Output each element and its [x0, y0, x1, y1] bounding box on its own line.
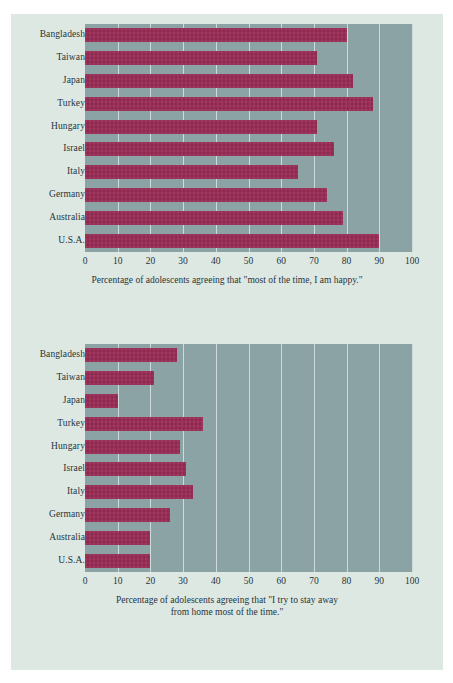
stayaway-xtick-80: 80	[342, 576, 352, 586]
happiness-xtick-90: 90	[375, 256, 385, 266]
category-label-japan: Japan	[11, 76, 85, 86]
category-label-germany: Germany	[11, 190, 85, 200]
happiness-xtick-60: 60	[276, 256, 286, 266]
happiness-xtick-0: 0	[83, 256, 88, 266]
stayaway-caption-line-2: from home most of the time."	[31, 606, 423, 618]
happiness-category-labels: BangladeshTaiwanJapanTurkeyHungaryIsrael…	[11, 24, 85, 252]
stayaway-gridline	[379, 344, 380, 572]
bar-hungary	[85, 120, 317, 134]
stayaway-xtick-70: 70	[309, 576, 319, 586]
category-label-japan: Japan	[11, 396, 85, 406]
happiness-xtick-10: 10	[113, 256, 123, 266]
bar-bangladesh	[85, 348, 177, 362]
stay-away-from-home-chart: BangladeshTaiwanJapanTurkeyHungaryIsrael…	[11, 344, 443, 654]
happiness-xtick-20: 20	[146, 256, 156, 266]
category-label-u-s-a: U.S.A.	[11, 236, 85, 246]
happiness-xtick-50: 50	[244, 256, 254, 266]
category-label-australia: Australia	[11, 213, 85, 223]
stayaway-xtick-100: 100	[405, 576, 419, 586]
category-label-hungary: Hungary	[11, 442, 85, 452]
bar-italy	[85, 485, 193, 499]
happiness-plot-wrap: BangladeshTaiwanJapanTurkeyHungaryIsrael…	[11, 24, 443, 269]
category-label-u-s-a: U.S.A.	[11, 556, 85, 566]
bar-taiwan	[85, 371, 154, 385]
bar-italy	[85, 165, 298, 179]
bar-japan	[85, 74, 353, 88]
stayaway-xtick-50: 50	[244, 576, 254, 586]
bar-germany	[85, 508, 170, 522]
stayaway-x-axis: 0102030405060708090100	[85, 572, 412, 592]
category-label-israel: Israel	[11, 464, 85, 474]
stayaway-xtick-0: 0	[83, 576, 88, 586]
stayaway-gridline	[249, 344, 250, 572]
category-label-hungary: Hungary	[11, 122, 85, 132]
bar-australia	[85, 531, 150, 545]
happiness-xtick-100: 100	[405, 256, 419, 266]
bar-hungary	[85, 440, 180, 454]
bar-turkey	[85, 97, 373, 111]
category-label-bangladesh: Bangladesh	[11, 30, 85, 40]
stayaway-gridline	[314, 344, 315, 572]
category-label-australia: Australia	[11, 533, 85, 543]
stayaway-plot-area	[85, 344, 412, 572]
bar-israel	[85, 142, 334, 156]
stayaway-xtick-60: 60	[276, 576, 286, 586]
bar-germany	[85, 188, 327, 202]
stayaway-caption-line-1: Percentage of adolescents agreeing that …	[31, 594, 423, 606]
category-label-taiwan: Taiwan	[11, 53, 85, 63]
stayaway-gridline	[347, 344, 348, 572]
stayaway-gridline	[281, 344, 282, 572]
happiness-gridline	[412, 24, 413, 252]
category-label-bangladesh: Bangladesh	[11, 350, 85, 360]
stayaway-xtick-30: 30	[178, 576, 188, 586]
stayaway-gridline	[412, 344, 413, 572]
happiness-xtick-30: 30	[178, 256, 188, 266]
bar-bangladesh	[85, 28, 347, 42]
happiness-x-axis: 0102030405060708090100	[85, 252, 412, 272]
stayaway-xtick-90: 90	[375, 576, 385, 586]
bar-israel	[85, 462, 186, 476]
stayaway-xtick-40: 40	[211, 576, 221, 586]
happiness-caption-line-1: Percentage of adolescents agreeing that …	[31, 274, 423, 286]
happiness-caption: Percentage of adolescents agreeing that …	[31, 274, 423, 286]
happiness-xtick-80: 80	[342, 256, 352, 266]
bar-japan	[85, 394, 118, 408]
bar-australia	[85, 211, 343, 225]
category-label-italy: Italy	[11, 487, 85, 497]
category-label-italy: Italy	[11, 167, 85, 177]
happiness-gridline	[347, 24, 348, 252]
stayaway-gridline	[216, 344, 217, 572]
figure-panel: BangladeshTaiwanJapanTurkeyHungaryIsrael…	[11, 14, 443, 670]
happiness-chart: BangladeshTaiwanJapanTurkeyHungaryIsrael…	[11, 24, 443, 334]
happiness-plot-area	[85, 24, 412, 252]
bar-turkey	[85, 417, 203, 431]
category-label-israel: Israel	[11, 144, 85, 154]
stayaway-category-labels: BangladeshTaiwanJapanTurkeyHungaryIsrael…	[11, 344, 85, 572]
happiness-xtick-40: 40	[211, 256, 221, 266]
bar-u-s-a	[85, 234, 379, 248]
stayaway-xtick-20: 20	[146, 576, 156, 586]
category-label-germany: Germany	[11, 510, 85, 520]
category-label-turkey: Turkey	[11, 419, 85, 429]
bar-u-s-a	[85, 554, 150, 568]
happiness-xtick-70: 70	[309, 256, 319, 266]
happiness-gridline	[379, 24, 380, 252]
figure-page: BangladeshTaiwanJapanTurkeyHungaryIsrael…	[0, 0, 453, 683]
category-label-taiwan: Taiwan	[11, 373, 85, 383]
stayaway-gridline	[183, 344, 184, 572]
category-label-turkey: Turkey	[11, 99, 85, 109]
stayaway-xtick-10: 10	[113, 576, 123, 586]
stayaway-plot-wrap: BangladeshTaiwanJapanTurkeyHungaryIsrael…	[11, 344, 443, 589]
bar-taiwan	[85, 51, 317, 65]
stayaway-caption: Percentage of adolescents agreeing that …	[31, 594, 423, 618]
